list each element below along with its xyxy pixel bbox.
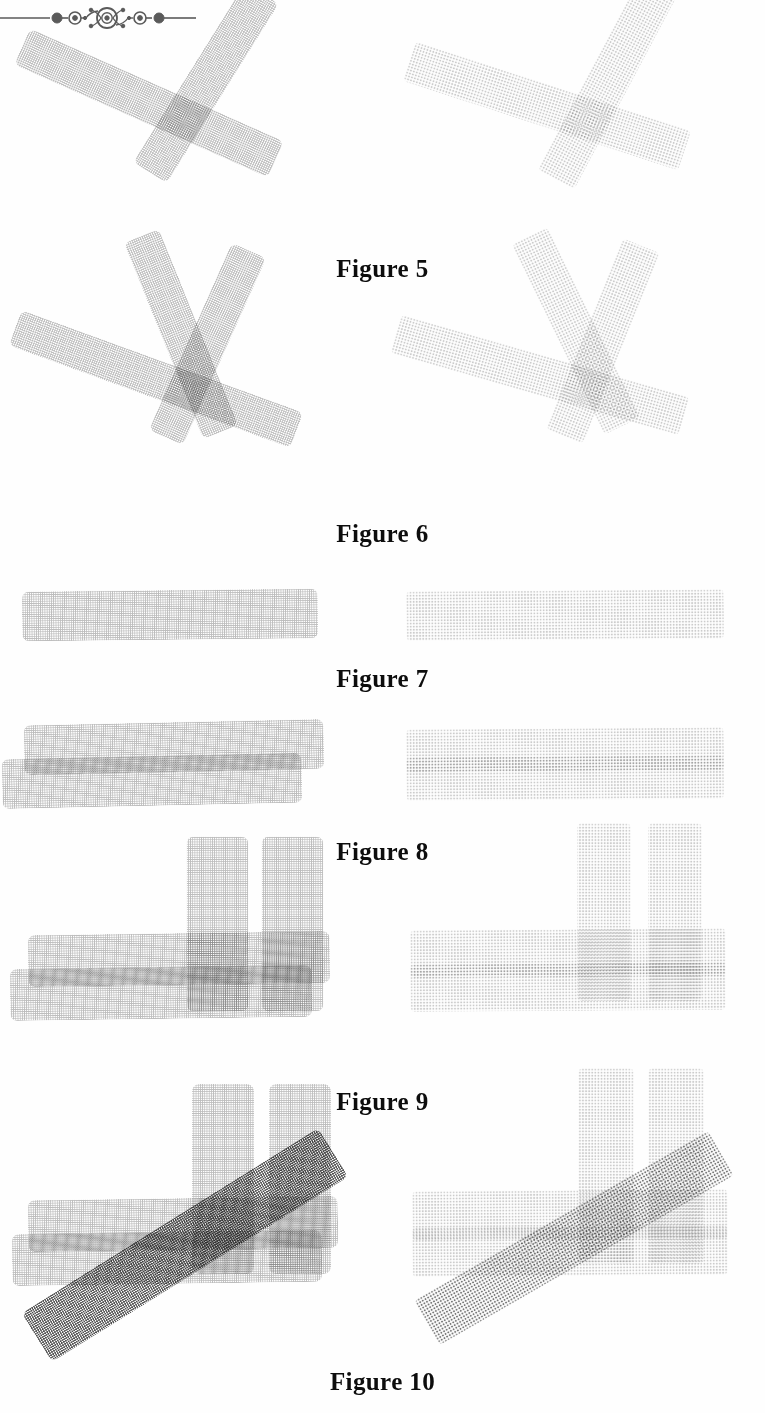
- halftone-image-diffuse: [390, 1128, 765, 1348]
- figure-panels: [0, 55, 765, 255]
- bar-horizontal: [22, 588, 319, 641]
- figure-panel-right: [390, 885, 765, 1070]
- halftone-image-diffuse: [390, 718, 765, 830]
- bar-horizontal-lower: [10, 965, 313, 1021]
- figure-panel-right: [390, 305, 765, 510]
- figure-block-figure-8: [0, 718, 765, 830]
- halftone-image-diffuse: [390, 305, 765, 510]
- figure-panel-right: [390, 1128, 765, 1348]
- figure-panel-right: [390, 55, 765, 255]
- figure-panel-left: [0, 55, 380, 255]
- halftone-image-diffuse: [390, 580, 765, 660]
- figure-caption: Figure 6: [0, 520, 765, 548]
- halftone-image-crisp: [0, 580, 380, 660]
- figure-panel-left: [0, 718, 380, 830]
- figure-block-figure-6: [0, 305, 765, 510]
- halftone-image-crisp: [0, 1128, 380, 1348]
- figure-panel-left: [0, 1128, 380, 1348]
- figure-panel-left: [0, 885, 380, 1070]
- decorative-rule-ornament: [0, 6, 196, 30]
- bar-horizontal-lower: [410, 962, 726, 1012]
- halftone-image-crisp: [0, 885, 380, 1070]
- halftone-image-crisp: [0, 718, 380, 830]
- figure-panels: [0, 718, 765, 830]
- figure-block-figure-9: [0, 885, 765, 1070]
- halftone-image-diffuse: [390, 55, 765, 255]
- figure-panel-right: [390, 718, 765, 830]
- figure-panel-left: [0, 305, 380, 510]
- bar-horizontal-lower: [2, 753, 303, 809]
- bar-horizontal-lower: [406, 755, 724, 801]
- figure-panels: [0, 305, 765, 510]
- figure-panel-left: [0, 580, 380, 660]
- figure-caption: Figure 10: [0, 1368, 765, 1396]
- halftone-image-crisp: [0, 55, 380, 255]
- bar-horizontal: [406, 589, 724, 641]
- figure-panels: [0, 580, 765, 660]
- halftone-image-diffuse: [390, 885, 765, 1070]
- figure-caption: Figure 7: [0, 665, 765, 693]
- figure-block-figure-5: [0, 55, 765, 255]
- figure-panels: [0, 1128, 765, 1348]
- bar-shallow-down: [390, 314, 689, 435]
- halftone-image-crisp: [0, 305, 380, 510]
- figure-block-figure-7: [0, 580, 765, 660]
- figure-panel-right: [390, 580, 765, 660]
- document-page: Figure 5Figure 6Figure 7Figure 8Figure 9…: [0, 0, 765, 1413]
- figure-block-figure-10: [0, 1128, 765, 1348]
- figure-panels: [0, 885, 765, 1070]
